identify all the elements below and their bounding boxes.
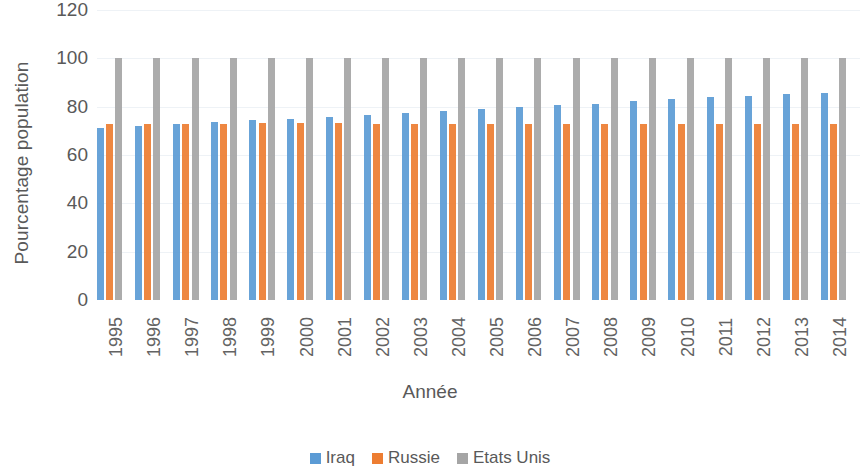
bar-russie [563,124,570,300]
bar-group [364,10,402,300]
bar-iraq [478,109,485,300]
bar-russie [144,124,151,300]
x-axis-tick: 1995 [106,317,127,357]
x-axis-tick-slot: 2011 [707,303,745,377]
x-axis-tick: 2012 [753,317,774,357]
legend-item[interactable]: Russie [372,448,440,468]
x-axis-tick-slot: 2002 [364,303,402,377]
y-axis-tick: 80 [32,96,88,118]
bar-etats-unis [611,58,618,300]
x-axis-tick-slot: 1995 [97,303,135,377]
bar-group [821,10,859,300]
bar-iraq [707,97,714,300]
bar-group [249,10,287,300]
bar-russie [830,124,837,300]
bar-group [478,10,516,300]
legend-label: Etats Unis [473,448,550,468]
x-axis-tick-slot: 2000 [288,303,326,377]
bar-iraq [402,113,409,300]
bar-group [554,10,592,300]
bar-iraq [97,128,104,300]
x-axis-tick: 2004 [448,317,469,357]
y-axis-tick: 0 [32,289,88,311]
y-axis-tick: 40 [32,192,88,214]
bar-etats-unis [801,58,808,300]
bar-etats-unis [382,58,389,300]
bar-iraq [211,122,218,300]
bar-etats-unis [458,58,465,300]
bar-russie [373,124,380,300]
bar-group [173,10,211,300]
bar-group [287,10,325,300]
bar-group [592,10,630,300]
x-axis-tick-slot: 1997 [173,303,211,377]
chart-legend: IraqRussieEtats Unis [0,448,860,468]
x-axis-tick: 2001 [334,317,355,357]
x-axis-tick-slot: 2008 [592,303,630,377]
x-axis-tick: 1999 [258,317,279,357]
bar-russie [259,123,266,300]
bar-iraq [440,111,447,300]
x-axis-tick-slot: 2010 [669,303,707,377]
x-axis-tick-slot: 2004 [440,303,478,377]
bar-group [97,10,135,300]
bar-russie [106,124,113,300]
x-axis-tick-slot: 2007 [554,303,592,377]
bar-group [745,10,783,300]
bar-group [707,10,745,300]
bar-iraq [668,99,675,300]
bar-iraq [783,94,790,300]
x-axis-tick-slot: 2006 [516,303,554,377]
x-axis-tick: 2009 [639,317,660,357]
bar-chart: Pourcentage population 120100806040200 1… [0,0,860,474]
bar-etats-unis [496,58,503,300]
bar-iraq [326,117,333,300]
x-axis-tick: 2011 [715,318,736,357]
legend-item[interactable]: Iraq [310,448,355,468]
bar-iraq [135,126,142,300]
bar-russie [525,124,532,300]
legend-swatch-icon [310,453,321,464]
bar-iraq [516,107,523,300]
legend-item[interactable]: Etats Unis [457,448,550,468]
bar-group [516,10,554,300]
x-axis-tick: 1997 [182,317,203,357]
bar-russie [640,124,647,300]
x-axis-tick-slot: 2003 [402,303,440,377]
x-axis-tick: 2014 [829,317,850,357]
bar-russie [754,124,761,300]
bar-russie [792,124,799,300]
x-axis-tick-slot: 2014 [821,303,859,377]
x-axis-tick: 2005 [487,317,508,357]
bar-russie [411,124,418,300]
x-axis-tick-slot: 1999 [249,303,287,377]
x-axis-tick: 1998 [220,317,241,357]
y-axis-tick: 60 [32,144,88,166]
bar-etats-unis [839,58,846,300]
x-axis-tick: 2002 [372,317,393,357]
bar-russie [487,124,494,300]
bar-etats-unis [649,58,656,300]
bar-russie [678,124,685,300]
bar-iraq [745,96,752,300]
bar-iraq [592,104,599,300]
x-axis-tick: 1996 [144,317,165,357]
plot-area [97,10,860,300]
x-axis-tick: 2006 [525,317,546,357]
bar-etats-unis [344,58,351,300]
x-axis-tick: 2010 [677,317,698,357]
x-axis-tick: 2003 [410,317,431,357]
legend-label: Iraq [326,448,355,468]
x-axis-tick: 2008 [601,317,622,357]
x-axis-tick-slot: 2013 [783,303,821,377]
y-axis-tick-labels: 120100806040200 [30,0,88,310]
bar-etats-unis [763,58,770,300]
legend-label: Russie [388,448,440,468]
bar-etats-unis [687,58,694,300]
bar-group [135,10,173,300]
x-axis-tick: 2013 [791,317,812,357]
bar-iraq [173,124,180,300]
bar-russie [601,124,608,300]
bar-iraq [554,105,561,300]
bar-russie [716,124,723,300]
